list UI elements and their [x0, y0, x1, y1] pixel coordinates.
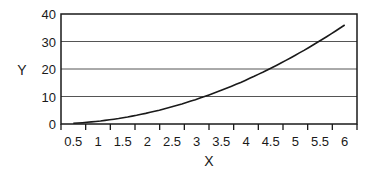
x-tick-label: 0.5 — [64, 134, 82, 149]
y-tick-label: 10 — [42, 90, 56, 105]
y-tick-label: 30 — [42, 35, 56, 50]
data-series-line — [73, 25, 344, 123]
x-tick-label: 3.5 — [212, 134, 230, 149]
gridlines — [61, 42, 357, 97]
y-tick-label: 0 — [49, 117, 56, 132]
x-tick-label: 4 — [242, 134, 249, 149]
line-chart: 010203040 0.511.522.533.544.555.56 Y X — [0, 0, 376, 176]
x-tick-label: 5.5 — [311, 134, 329, 149]
x-tick-label: 5 — [292, 134, 299, 149]
x-tick-label: 6 — [341, 134, 348, 149]
x-tick-label: 2 — [144, 134, 151, 149]
x-tick-label: 4.5 — [262, 134, 280, 149]
x-tick-label: 3 — [193, 134, 200, 149]
x-tick-label: 1.5 — [114, 134, 132, 149]
x-tick-label: 2.5 — [163, 134, 181, 149]
x-axis-title: X — [204, 153, 214, 169]
x-tick-label: 1 — [94, 134, 101, 149]
y-tick-label: 40 — [42, 7, 56, 22]
y-axis-title: Y — [17, 62, 27, 78]
y-tick-label: 20 — [42, 62, 56, 77]
y-axis: 010203040 — [42, 7, 56, 132]
x-axis: 0.511.522.533.544.555.56 — [61, 124, 357, 149]
